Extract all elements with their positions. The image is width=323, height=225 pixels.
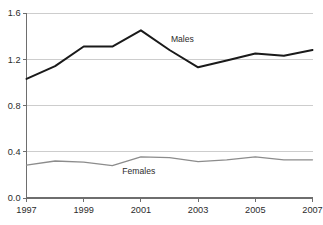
series-line-females	[27, 157, 313, 166]
axes-group	[23, 13, 313, 202]
series-group	[27, 30, 313, 165]
line-chart: 0.00.40.81.21.6 199719992001200320052007…	[0, 0, 323, 225]
y-tick-label: 0.8	[8, 101, 21, 111]
x-tick-label: 2003	[188, 205, 208, 215]
y-tick-label: 0.4	[8, 147, 21, 157]
y-tick-label: 1.6	[8, 8, 21, 18]
x-tick-label: 2005	[245, 205, 265, 215]
series-line-males	[27, 30, 313, 79]
x-tick-label: 2001	[131, 205, 151, 215]
chart-canvas: 0.00.40.81.21.6 199719992001200320052007…	[0, 0, 323, 225]
y-tick-label: 0.0	[8, 193, 21, 203]
x-tick-label: 2007	[302, 205, 322, 215]
y-tick-label: 1.2	[8, 55, 21, 65]
x-tick-label: 1997	[16, 205, 36, 215]
x-tick-labels-group: 199719992001200320052007	[16, 205, 322, 215]
series-label-males: Males	[171, 34, 194, 44]
x-tick-label: 1999	[73, 205, 93, 215]
y-tick-labels-group: 0.00.40.81.21.6	[8, 8, 21, 203]
gridlines-group	[27, 13, 314, 152]
series-label-females: Females	[122, 166, 155, 176]
